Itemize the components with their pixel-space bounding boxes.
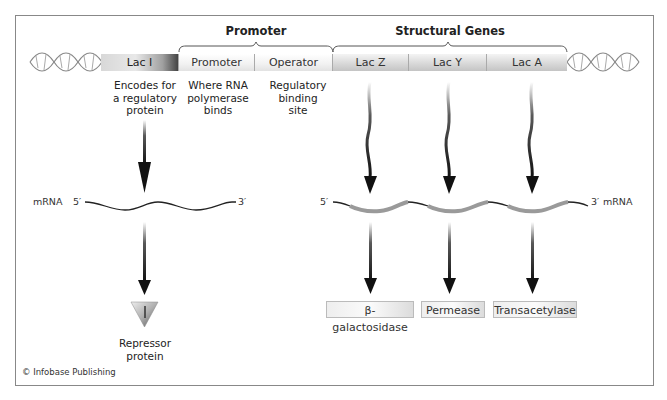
repressor-label-line: protein — [105, 350, 185, 363]
mrna-left-3prime: 3′ — [238, 196, 246, 207]
mrna-left-5prime: 5′ — [73, 196, 81, 207]
promoter-desc-line: binds — [178, 104, 258, 117]
repressor-label-line: Repressor — [105, 337, 185, 350]
promoter-desc-line: Where RNA — [178, 79, 258, 92]
transcription-arrows — [364, 82, 539, 194]
dna-helix-right-icon — [567, 53, 639, 71]
mrna-left-strand — [85, 202, 236, 210]
gene-operator: Operator — [255, 54, 333, 71]
operator-desc-line: site — [258, 104, 338, 117]
protein-beta-galactosidase: β-galactosidase — [326, 301, 414, 318]
dna-helix-left-icon — [30, 53, 102, 71]
gene-lac-z: Lac Z — [333, 54, 409, 71]
operator-desc-line: Regulatory — [258, 79, 338, 92]
laci-desc-line: a regulatory — [100, 92, 190, 105]
mrna-right-label: mRNA — [603, 196, 632, 207]
structural-genes-bracket — [333, 42, 567, 52]
arrow-repressor-head-icon — [138, 280, 151, 295]
promoter-region-title: Promoter — [216, 24, 296, 38]
promoter-desc-line: polymerase — [178, 92, 258, 105]
arrow-repressor-shaft — [143, 222, 146, 282]
protein-transacetylase: Transacetylase — [493, 301, 577, 318]
arrow-laci-shaft — [143, 120, 146, 165]
repressor-label: Repressor protein — [105, 337, 185, 362]
promoter-description: Where RNA polymerase binds — [178, 79, 258, 117]
copyright-credit: © Infobase Publishing — [22, 367, 116, 377]
operator-description: Regulatory binding site — [258, 79, 338, 117]
mrna-right-3prime: 3′ — [591, 196, 599, 207]
laci-desc-line: Encodes for — [100, 79, 190, 92]
gene-lac-a: Lac A — [487, 54, 567, 71]
mrna-right-strand — [333, 202, 588, 211]
translation-arrows — [364, 222, 539, 294]
arrow-laci-head-icon — [138, 162, 151, 193]
gene-lac-y: Lac Y — [409, 54, 487, 71]
protein-permease: Permease — [421, 301, 485, 318]
mrna-right-5prime: 5′ — [320, 196, 328, 207]
laci-description: Encodes for a regulatory protein — [100, 79, 190, 117]
mrna-left-label: mRNA — [33, 196, 62, 207]
gene-lac-i: Lac I — [101, 54, 179, 71]
operator-desc-line: binding — [258, 92, 338, 105]
structural-genes-title: Structural Genes — [380, 24, 520, 38]
laci-desc-line: protein — [100, 104, 190, 117]
promoter-bracket — [179, 42, 333, 52]
gene-promoter: Promoter — [179, 54, 255, 71]
